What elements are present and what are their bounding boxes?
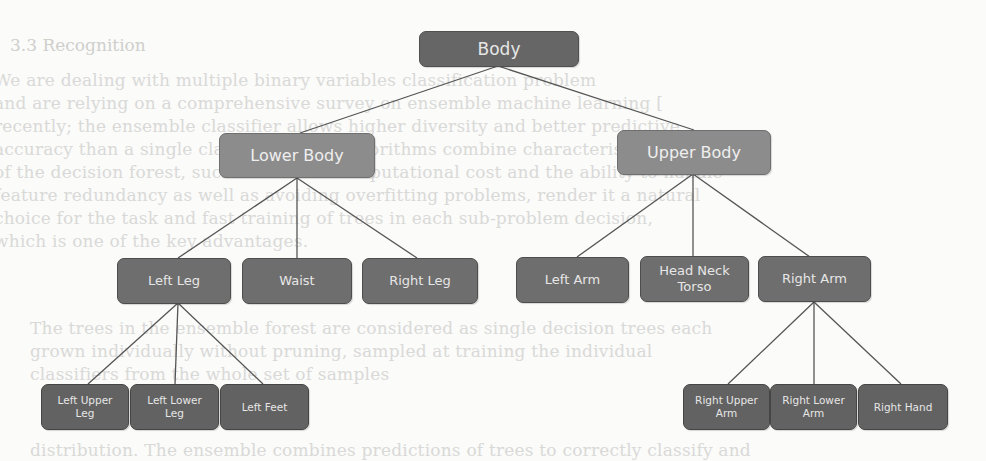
edge-upper-body-right-arm: [693, 174, 810, 257]
edge-right-arm-right-hand: [814, 302, 901, 384]
node-head-neck-torso: Head Neck Torso: [640, 256, 749, 302]
edge-lower-body-right-leg: [297, 178, 417, 258]
node-label: Left Lower Leg: [139, 394, 211, 419]
node-label: Right Leg: [386, 273, 454, 289]
node-label: Left Upper Leg: [48, 394, 122, 419]
node-left-upper-leg: Left Upper Leg: [41, 384, 129, 430]
edge-body-lower-body: [300, 66, 498, 133]
node-left-feet: Left Feet: [220, 384, 309, 430]
node-waist: Waist: [242, 258, 352, 304]
edge-lower-body-left-leg: [178, 178, 297, 258]
node-label: Left Feet: [239, 401, 291, 414]
node-right-arm: Right Arm: [758, 256, 871, 302]
edge-body-upper-body: [498, 66, 694, 130]
node-left-lower-leg: Left Lower Leg: [130, 384, 219, 430]
edge-left-leg-left-feet: [178, 303, 263, 384]
node-body: Body: [419, 31, 579, 67]
node-label: Right Arm: [779, 271, 850, 287]
node-right-leg: Right Leg: [362, 258, 478, 304]
node-label: Right Lower Arm: [776, 394, 852, 419]
edge-left-leg-left-upper-leg: [88, 303, 178, 384]
node-left-leg: Left Leg: [117, 258, 231, 304]
node-label: Lower Body: [247, 146, 346, 165]
node-label: Left Arm: [542, 272, 603, 288]
edge-left-leg-left-lower-leg: [175, 303, 178, 384]
node-label: Left Leg: [145, 273, 203, 289]
node-label: Upper Body: [644, 143, 744, 162]
node-right-upper-arm: Right Upper Arm: [683, 384, 770, 430]
node-right-lower-arm: Right Lower Arm: [770, 384, 857, 430]
node-label: Right Upper Arm: [689, 394, 765, 419]
node-left-arm: Left Arm: [516, 257, 629, 303]
node-label: Waist: [276, 273, 317, 289]
node-label: Body: [475, 39, 524, 59]
node-label: Head Neck Torso: [652, 263, 738, 294]
node-upper-body: Upper Body: [617, 130, 771, 175]
edge-upper-body-left-arm: [577, 174, 693, 257]
node-lower-body: Lower Body: [219, 133, 375, 178]
edge-right-arm-right-upper-arm: [728, 302, 814, 384]
node-label: Right Hand: [871, 401, 936, 414]
node-right-hand: Right Hand: [858, 384, 948, 430]
